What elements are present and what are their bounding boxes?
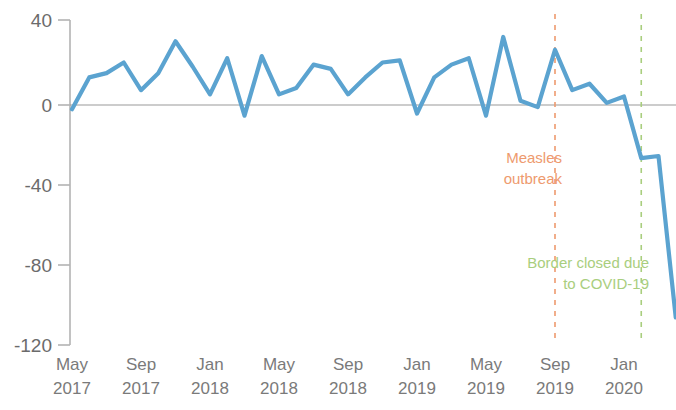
y-axis-ticks (58, 20, 70, 345)
x-tick-month-3: May (263, 355, 296, 374)
x-tick-month-8: Jan (610, 355, 637, 374)
x-tick-month-5: Jan (403, 355, 430, 374)
x-tick-year-2: 2018 (191, 379, 229, 398)
y-tick-label-minus120: -120 (14, 335, 52, 356)
y-tick-label-minus80: -80 (25, 255, 52, 276)
x-tick-month-7: Sep (540, 355, 570, 374)
x-tick-month-0: May (56, 355, 89, 374)
x-axis-tick-labels: May2017Sep2017Jan2018May2018Sep2018Jan20… (53, 355, 643, 398)
x-tick-year-7: 2019 (536, 379, 574, 398)
y-tick-label-0: 0 (41, 95, 52, 116)
x-tick-month-1: Sep (126, 355, 156, 374)
annotation-measles-line2: outbreak (504, 170, 563, 187)
y-tick-label-minus40: -40 (25, 175, 52, 196)
x-tick-year-4: 2018 (329, 379, 367, 398)
x-tick-year-1: 2017 (122, 379, 160, 398)
x-tick-year-3: 2018 (260, 379, 298, 398)
x-tick-month-4: Sep (333, 355, 363, 374)
x-tick-year-6: 2019 (467, 379, 505, 398)
annotation-covid-line2: to COVID-19 (563, 275, 649, 292)
line-chart: 40 0 -40 -80 -120 May2017Sep2017Jan2018M… (0, 0, 676, 410)
x-tick-year-0: 2017 (53, 379, 91, 398)
x-tick-year-5: 2019 (398, 379, 436, 398)
x-tick-month-6: May (470, 355, 503, 374)
y-tick-label-40: 40 (31, 10, 52, 31)
x-tick-month-2: Jan (196, 355, 223, 374)
annotation-covid-line1: Border closed due (527, 254, 649, 271)
chart-plot-area: 40 0 -40 -80 -120 May2017Sep2017Jan2018M… (0, 0, 676, 410)
x-tick-year-8: 2020 (605, 379, 643, 398)
annotation-measles-line1: Measles (506, 149, 562, 166)
